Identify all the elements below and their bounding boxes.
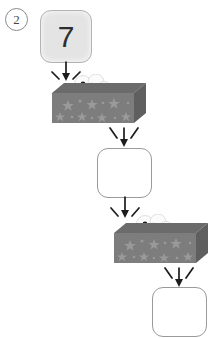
- worksheet-canvas: 2 7: [0, 0, 212, 338]
- input-number-value: 7: [58, 22, 75, 52]
- function-machine-1[interactable]: [42, 74, 146, 130]
- problem-number-text: 2: [13, 13, 20, 26]
- arrow-machine-2-to-output: [153, 266, 205, 288]
- middle-answer-box[interactable]: [97, 148, 152, 198]
- arrow-machine-1-to-middle: [98, 126, 150, 148]
- problem-number-badge: 2: [5, 8, 28, 31]
- input-number-box[interactable]: 7: [40, 10, 92, 63]
- output-answer-box[interactable]: [152, 287, 207, 337]
- function-machine-2[interactable]: [104, 214, 208, 270]
